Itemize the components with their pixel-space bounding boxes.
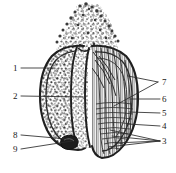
- label-1: 1: [13, 64, 18, 73]
- label-8: 8: [13, 131, 18, 140]
- anatomical-figure: 1 2 3 4 5 6 7 8 9: [0, 0, 176, 173]
- label-6: 6: [162, 95, 167, 104]
- figure-drawing: [0, 0, 176, 173]
- apex-stippled-mass: [50, 0, 126, 56]
- label-9: 9: [13, 145, 18, 154]
- label-3: 3: [162, 137, 167, 146]
- label-4: 4: [162, 122, 167, 131]
- label-2: 2: [13, 92, 18, 101]
- label-7: 7: [162, 78, 167, 87]
- label-5: 5: [162, 109, 167, 118]
